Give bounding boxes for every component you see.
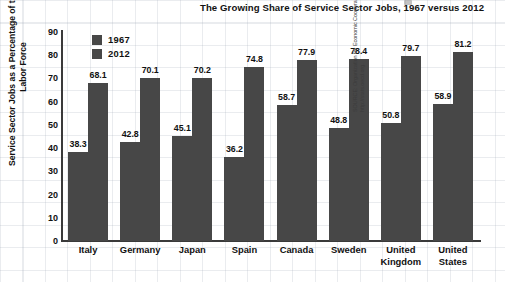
legend-swatch-icon (92, 49, 102, 59)
y-axis-tick-50: 50 (34, 120, 58, 130)
x-label-canada: Canada (271, 244, 323, 280)
legend-label: 1967 (108, 34, 130, 45)
y-axis-tick-60: 60 (34, 97, 58, 107)
x-label-spain: Spain (218, 244, 270, 280)
bar-germany-1967[interactable]: 42.8 (120, 142, 140, 241)
bar-value-label: 79.7 (402, 43, 419, 53)
bars-wrap: 50.879.7 (375, 32, 427, 241)
bar-germany-2012[interactable]: 70.1 (140, 78, 160, 241)
x-label-united-kingdom: UnitedKingdom (375, 244, 427, 280)
y-axis-tick-90: 90 (34, 27, 58, 37)
bar-value-label: 58.9 (434, 91, 451, 101)
plot-area: 38.368.142.870.145.170.236.274.858.777.9… (62, 32, 479, 241)
bar-canada-2012[interactable]: 77.9 (297, 60, 317, 241)
x-label-line: Sweden (323, 244, 375, 256)
bar-united-states-1967[interactable]: 58.9 (433, 104, 453, 241)
bar-value-label: 81.2 (454, 39, 471, 49)
bar-united-kingdom-1967[interactable]: 50.8 (381, 123, 401, 241)
bar-group-united-kingdom: 50.879.7 (375, 32, 427, 241)
bar-italy-2012[interactable]: 68.1 (88, 83, 108, 241)
bar-spain-2012[interactable]: 74.8 (244, 67, 264, 241)
y-axis-tick-labels: 9080706050403020100 (30, 32, 58, 241)
y-axis-tick-40: 40 (34, 143, 58, 153)
x-label-line: States (427, 256, 479, 268)
bar-groups: 38.368.142.870.145.170.236.274.858.777.9… (62, 32, 479, 241)
bar-united-states-2012[interactable]: 81.2 (453, 52, 473, 241)
bars-wrap: 45.170.2 (166, 32, 218, 241)
y-axis-tick-70: 70 (34, 73, 58, 83)
y-axis-tick-80: 80 (34, 50, 58, 60)
bar-group-united-states: 58.981.2 (427, 32, 479, 241)
bar-value-label: 36.2 (226, 144, 243, 154)
x-label-line: Spain (218, 244, 270, 256)
bar-value-label: 48.8 (330, 115, 347, 125)
x-label-line: United (427, 244, 479, 256)
bar-value-label: 42.8 (122, 129, 139, 139)
x-axis-category-labels: ItalyGermanyJapanSpainCanadaSwedenUnited… (62, 244, 479, 280)
bar-spain-1967[interactable]: 36.2 (224, 157, 244, 241)
legend-item-2012: 2012 (92, 48, 130, 59)
bars-wrap: 58.981.2 (427, 32, 479, 241)
bar-value-label: 77.9 (298, 47, 315, 57)
bar-group-italy: 38.368.1 (62, 32, 114, 241)
bars-wrap: 48.878.4 (323, 32, 375, 241)
bar-value-label: 74.8 (246, 54, 263, 64)
bars-wrap: 58.777.9 (271, 32, 323, 241)
x-label-line: United (375, 244, 427, 256)
x-label-sweden: Sweden (323, 244, 375, 280)
x-label-line: Canada (271, 244, 323, 256)
bar-japan-2012[interactable]: 70.2 (192, 78, 212, 241)
x-label-united-states: UnitedStates (427, 244, 479, 280)
bar-japan-1967[interactable]: 45.1 (172, 136, 192, 241)
bar-sweden-1967[interactable]: 48.8 (329, 128, 349, 241)
scan-artifact (404, 0, 412, 5)
legend-label: 2012 (108, 48, 130, 59)
x-label-japan: Japan (166, 244, 218, 280)
x-label-germany: Germany (114, 244, 166, 280)
bar-italy-1967[interactable]: 38.3 (68, 152, 88, 241)
x-label-line: Italy (62, 244, 114, 256)
legend-swatch-icon (92, 35, 102, 45)
bar-value-label: 45.1 (174, 123, 191, 133)
bar-value-label: 38.3 (70, 139, 87, 149)
x-label-line: Japan (166, 244, 218, 256)
bars-wrap: 38.368.1 (62, 32, 114, 241)
y-axis-tick-0: 0 (34, 236, 58, 246)
bar-value-label: 70.2 (194, 65, 211, 75)
y-axis-tick-20: 20 (34, 190, 58, 200)
bar-group-japan: 45.170.2 (166, 32, 218, 241)
bar-united-kingdom-2012[interactable]: 79.7 (401, 56, 421, 241)
y-axis-tick-30: 30 (34, 166, 58, 176)
chart-title: The Growing Share of Service Sector Jobs… (182, 2, 502, 13)
bar-value-label: 68.1 (90, 70, 107, 80)
chart-page: The Growing Share of Service Sector Jobs… (0, 0, 505, 282)
y-axis-tick-10: 10 (34, 213, 58, 223)
bar-canada-1967[interactable]: 58.7 (277, 105, 297, 241)
y-axis-title: Service Sector Jobs as a Percentage of t… (7, 0, 29, 167)
bar-value-label: 58.7 (278, 92, 295, 102)
bars-wrap: 36.274.8 (218, 32, 270, 241)
x-label-line: Germany (114, 244, 166, 256)
bar-group-germany: 42.870.1 (114, 32, 166, 241)
legend-item-1967: 1967 (92, 34, 130, 45)
bar-group-canada: 58.777.9 (271, 32, 323, 241)
source-note: SOURCE: Organization for Economic Cooper… (352, 0, 366, 112)
chart-legend: 19672012 (92, 34, 130, 62)
x-label-line: Kingdom (375, 256, 427, 268)
bar-value-label: 50.8 (382, 110, 399, 120)
x-label-italy: Italy (62, 244, 114, 280)
bar-group-sweden: 48.878.4 (323, 32, 375, 241)
bars-wrap: 42.870.1 (114, 32, 166, 241)
bar-group-spain: 36.274.8 (218, 32, 270, 241)
bar-value-label: 70.1 (142, 65, 159, 75)
